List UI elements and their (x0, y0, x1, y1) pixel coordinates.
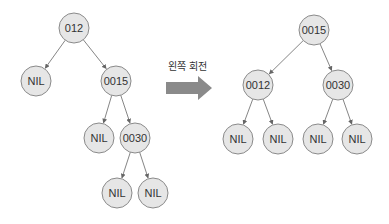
after-edge (320, 44, 332, 71)
before-tree-node: NIL (138, 178, 168, 208)
after-tree-node: NIL (223, 124, 253, 154)
before-tree-node: 0015 (101, 66, 131, 96)
before-edge (121, 95, 130, 123)
node-label: 0030 (123, 132, 147, 144)
after-tree-node: 0015 (299, 15, 329, 45)
node-label: 012 (65, 22, 83, 34)
tree-canvas: 012NIL0015NIL0030NILNIL001500120030NILNI… (0, 0, 389, 224)
before-tree-node: NIL (21, 66, 51, 96)
rotation-arrow-icon (166, 76, 212, 100)
before-edge (83, 40, 106, 69)
before-edge (140, 152, 148, 178)
after-edge (324, 99, 333, 124)
node-label: NIL (27, 75, 44, 87)
node-label: NIL (108, 187, 125, 199)
node-label: NIL (229, 133, 246, 145)
before-tree-node: NIL (84, 123, 114, 153)
after-edge (263, 99, 272, 124)
rotation-label: 왼쪽 회전 (168, 58, 207, 73)
node-label: NIL (309, 133, 326, 145)
after-edge (269, 41, 303, 74)
before-tree-node: NIL (102, 178, 132, 208)
before-edge (45, 40, 65, 68)
node-label: NIL (144, 187, 161, 199)
before-tree-node: 0030 (120, 123, 150, 153)
rotation-diagram: 012NIL0015NIL0030NILNIL001500120030NILNI… (0, 0, 389, 224)
node-label: NIL (348, 133, 365, 145)
after-edge (244, 99, 253, 124)
after-tree-node: 0030 (323, 70, 353, 100)
after-tree-node: NIL (303, 124, 333, 154)
node-label: NIL (269, 133, 286, 145)
after-tree-node: NIL (342, 124, 372, 154)
before-edge (122, 152, 130, 178)
node-label: NIL (90, 132, 107, 144)
after-tree-node: 0012 (243, 70, 273, 100)
before-edge (104, 95, 112, 122)
after-edge (343, 99, 352, 124)
node-label: 0030 (326, 79, 350, 91)
node-label: 0012 (246, 79, 270, 91)
before-tree-node: 012 (59, 13, 89, 43)
node-label: 0015 (302, 24, 326, 36)
after-tree-node: NIL (263, 124, 293, 154)
node-label: 0015 (104, 75, 128, 87)
